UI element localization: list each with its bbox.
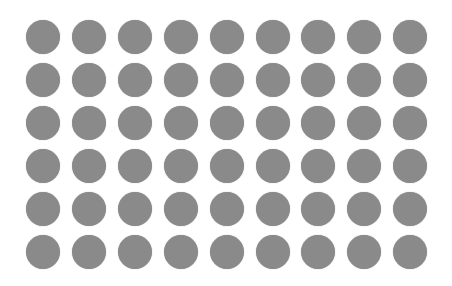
gray-circle (210, 149, 244, 183)
gray-circle (256, 106, 290, 140)
gray-circle (210, 63, 244, 97)
gray-circle (301, 235, 335, 269)
gray-circle (26, 149, 60, 183)
gray-circle (164, 20, 198, 54)
gray-circle (301, 106, 335, 140)
gray-circle (347, 149, 381, 183)
gray-circle (118, 20, 152, 54)
gray-circle (393, 149, 427, 183)
gray-circle (210, 235, 244, 269)
gray-circle (164, 149, 198, 183)
gray-circle (393, 235, 427, 269)
gray-circle (72, 106, 106, 140)
gray-circle (347, 63, 381, 97)
gray-circle (164, 235, 198, 269)
gray-circle (210, 192, 244, 226)
gray-circle (164, 106, 198, 140)
gray-circle (26, 235, 60, 269)
gray-circle (347, 192, 381, 226)
gray-circle (301, 20, 335, 54)
gray-circle (26, 63, 60, 97)
gray-circle (301, 149, 335, 183)
gray-circle (118, 149, 152, 183)
gray-circle (26, 20, 60, 54)
gray-circle (301, 192, 335, 226)
gray-circle (256, 20, 290, 54)
gray-circle (72, 235, 106, 269)
gray-circle (72, 149, 106, 183)
gray-circle (393, 20, 427, 54)
gray-circle (393, 63, 427, 97)
gray-circle (118, 192, 152, 226)
gray-circle (164, 192, 198, 226)
gray-circle (26, 192, 60, 226)
gray-circle (26, 106, 60, 140)
gray-circle (347, 20, 381, 54)
gray-circle (256, 149, 290, 183)
gray-circle (256, 63, 290, 97)
gray-circle (393, 192, 427, 226)
gray-circle (347, 235, 381, 269)
gray-circle (118, 106, 152, 140)
gray-circle (301, 63, 335, 97)
gray-circle (256, 235, 290, 269)
gray-circle (210, 106, 244, 140)
gray-circle (347, 106, 381, 140)
gray-circle (72, 63, 106, 97)
gray-circle (393, 106, 427, 140)
gray-circle (164, 63, 198, 97)
dot-grid (0, 0, 452, 286)
gray-circle (72, 192, 106, 226)
gray-circle (256, 192, 290, 226)
gray-circle (72, 20, 106, 54)
gray-circle (210, 20, 244, 54)
gray-circle (118, 63, 152, 97)
gray-circle (118, 235, 152, 269)
